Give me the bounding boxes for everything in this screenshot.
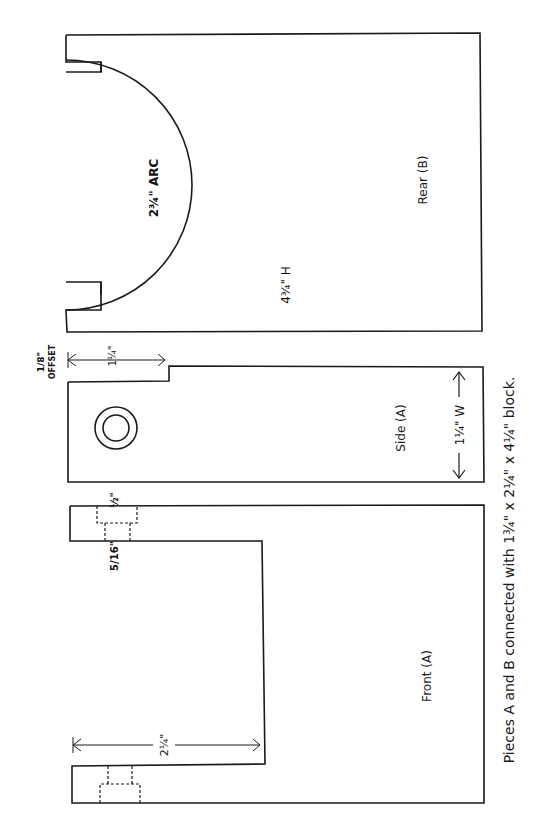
rear-height-label: 4¾" H xyxy=(279,266,293,304)
hole-inner xyxy=(103,415,129,441)
front-hole-bottom xyxy=(100,766,140,803)
front-label: Front (A) xyxy=(420,650,434,702)
side-piece xyxy=(68,366,484,482)
side-label: Side (A) xyxy=(394,404,408,451)
diagram-canvas: 2¾" ARC 4¾" H Rear (B) 1¼" 1/8" OFFSET S… xyxy=(0,0,534,830)
arc-cutout xyxy=(66,60,192,310)
hole-top-label: ½" xyxy=(109,492,120,508)
side-width-label: 1¼" W xyxy=(453,405,467,446)
offset-word: OFFSET xyxy=(48,344,57,379)
front-hole-top xyxy=(97,506,137,541)
offset-fraction: 1/8" xyxy=(36,352,46,373)
side-step-label: 1¼" xyxy=(107,346,118,367)
caption: Pieces A and B connected with 1¾" x 2¼" … xyxy=(501,377,517,764)
hole-bottom-label: 5/16" xyxy=(109,541,120,571)
front-opening-label: 2¼" xyxy=(158,734,171,757)
arc-label: 2¾" ARC xyxy=(147,159,161,218)
rear-label: Rear (B) xyxy=(416,156,430,205)
hole-outer xyxy=(95,407,137,449)
